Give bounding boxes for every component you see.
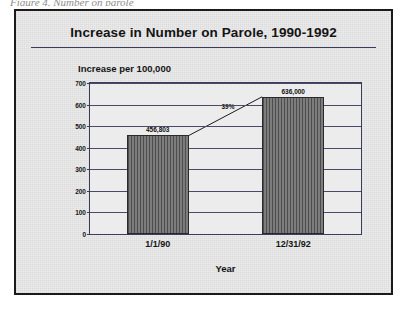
- title-underline-rule: [31, 47, 376, 48]
- y-axis-tick-mark: [87, 83, 90, 84]
- y-axis-tick-label: 500: [75, 123, 86, 130]
- y-axis-tick-mark: [87, 105, 90, 106]
- y-axis-tick-label: 700: [75, 80, 86, 87]
- bar-value-label: 636,000: [281, 88, 305, 95]
- bar-value-label: 456,803: [146, 126, 170, 133]
- y-axis-tick-mark: [87, 169, 90, 170]
- x-axis-label: Year: [89, 263, 362, 274]
- y-axis-tick-label: 200: [75, 187, 86, 194]
- y-axis-label: Increase per 100,000: [78, 63, 171, 74]
- chart-title: Increase in Number on Parole, 1990-1992: [16, 25, 391, 40]
- bar: 456,8031/1/90: [127, 135, 189, 234]
- y-axis-tick-label: 600: [75, 101, 86, 108]
- scan-artifact-text: Figure 4. Number on parole: [10, 0, 260, 6]
- y-axis-tick-mark: [87, 148, 90, 149]
- x-axis-tick-label: 12/31/92: [276, 239, 311, 249]
- bar: 636,00012/31/92: [262, 97, 324, 234]
- x-axis-tick-label: 1/1/90: [145, 239, 170, 249]
- y-axis-tick-label: 300: [75, 166, 86, 173]
- y-axis-tick-mark: [87, 234, 90, 235]
- y-axis-tick-mark: [87, 212, 90, 213]
- plot-area: 39% 0100200300400500600700456,8031/1/906…: [89, 82, 362, 235]
- y-axis-tick-label: 400: [75, 144, 86, 151]
- y-axis-tick-mark: [87, 126, 90, 127]
- y-axis-tick-label: 0: [82, 231, 86, 238]
- y-axis-tick-label: 100: [75, 209, 86, 216]
- gridline: [90, 83, 361, 84]
- y-axis-tick-mark: [87, 191, 90, 192]
- figure-frame: Increase in Number on Parole, 1990-1992 …: [14, 9, 393, 295]
